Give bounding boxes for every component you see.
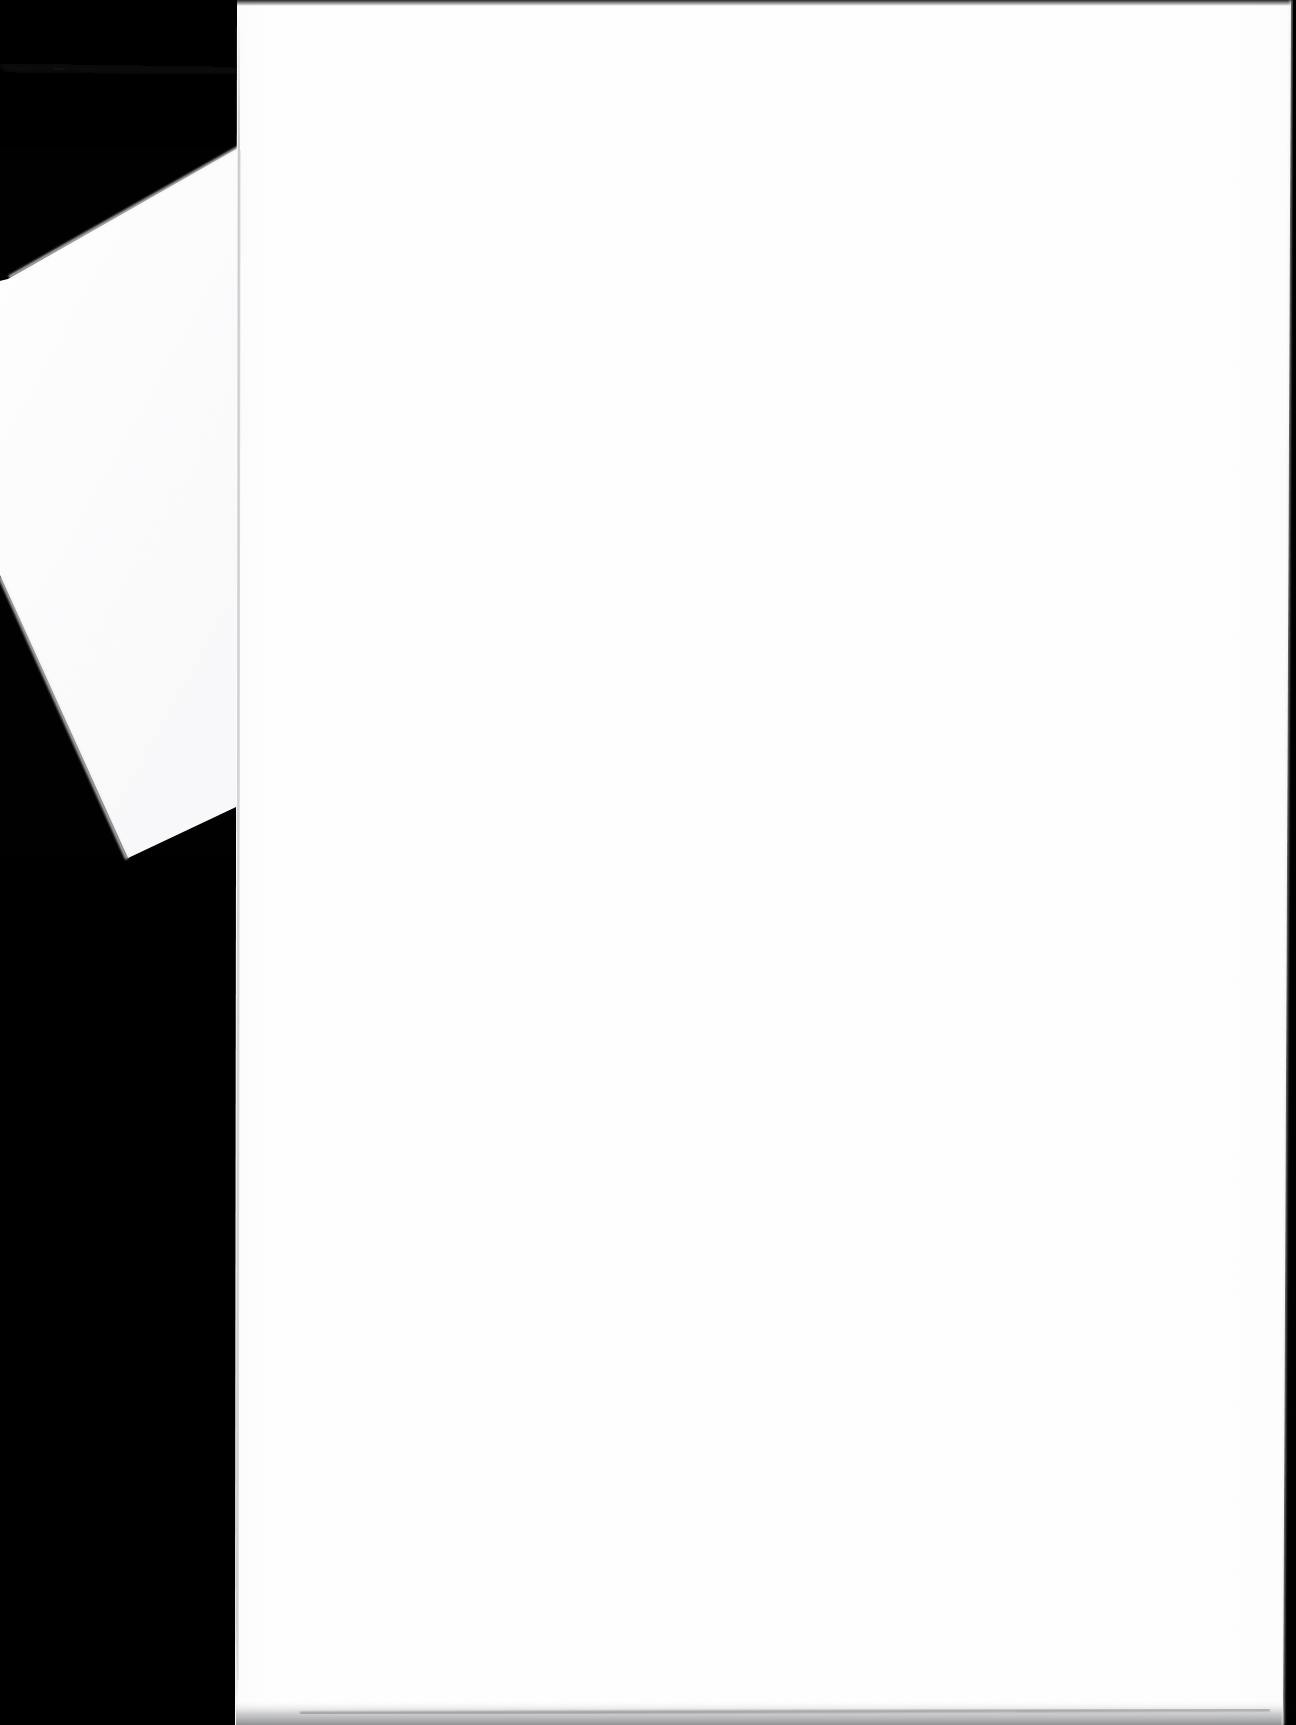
scanned-image-canvas: Scanned blank document page [0, 0, 1296, 1725]
main-scanned-page [235, 0, 1291, 1725]
scan-composition [0, 0, 1296, 1725]
page-top-edge-shade [237, 0, 1292, 6]
page-bottom-shadow [236, 1700, 1284, 1725]
